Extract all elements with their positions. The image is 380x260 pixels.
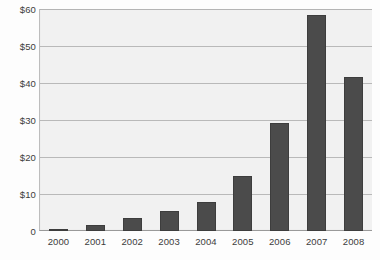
y-axis-tick-label: $40 <box>0 78 36 89</box>
y-axis-tick-label: $30 <box>0 115 36 126</box>
y-axis-tick-label: $60 <box>0 4 36 15</box>
y-axis-tick-label: $20 <box>0 152 36 163</box>
x-axis-tick-label: 2006 <box>260 236 300 247</box>
y-axis-tick-label: $10 <box>0 189 36 200</box>
x-axis-tick-label: 2002 <box>112 236 152 247</box>
bar <box>344 77 363 231</box>
bar-series <box>40 9 372 231</box>
bar <box>86 225 105 231</box>
x-axis-tick-labels: 200020012002200320042005200620072008 <box>40 236 372 254</box>
bar <box>123 218 142 231</box>
y-axis-tick-label: 0 <box>0 226 36 237</box>
bar <box>49 229 68 231</box>
bar <box>307 15 326 231</box>
x-axis-tick-label: 2001 <box>75 236 115 247</box>
y-axis-tick-labels: 0$10$20$30$40$50$60 <box>0 0 36 260</box>
x-axis-tick-label: 2005 <box>223 236 263 247</box>
x-axis-tick-label: 2000 <box>38 236 78 247</box>
bar <box>197 202 216 231</box>
bar <box>270 123 289 231</box>
x-axis-tick-label: 2008 <box>334 236 374 247</box>
x-axis-tick-label: 2007 <box>297 236 337 247</box>
bar <box>233 176 252 232</box>
x-axis-tick-label: 2003 <box>149 236 189 247</box>
x-axis-tick-label: 2004 <box>186 236 226 247</box>
bar <box>160 211 179 231</box>
bar-chart: 0$10$20$30$40$50$60 20002001200220032004… <box>0 0 380 260</box>
y-axis-tick-label: $50 <box>0 41 36 52</box>
